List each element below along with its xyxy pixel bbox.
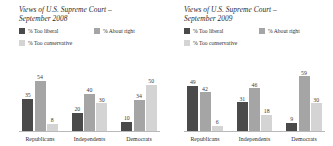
chart-title-line1: Views of U.S. Supreme Court – [19, 5, 166, 14]
plot-area: 35 54 8 20 [19, 75, 160, 132]
bar [200, 92, 211, 131]
bar-slot: 49 [187, 75, 198, 131]
bar [134, 100, 145, 132]
bar-value: 35 [25, 92, 31, 98]
bar [237, 102, 248, 131]
legend-label: % Too liberal [193, 28, 223, 34]
category-label: Independents [69, 136, 111, 143]
bar [299, 76, 310, 131]
category-axis-labels: Republicans Independents Democrats [184, 136, 325, 143]
bar [286, 123, 297, 131]
bar [47, 124, 58, 131]
bar-slot: 35 [22, 75, 33, 131]
dual-bar-chart-figure: Views of U.S. Supreme Court – September … [0, 0, 333, 146]
bar-value: 46 [252, 82, 258, 88]
bar-slot: 20 [72, 75, 83, 131]
bar [261, 115, 272, 132]
bar [187, 86, 198, 132]
legend-swatch-icon [184, 28, 190, 34]
bar-value: 31 [239, 96, 245, 102]
chart-title-line1: Views of U.S. Supreme Court – [184, 5, 332, 14]
bar-value: 20 [74, 106, 80, 112]
bar-slot: 9 [286, 75, 297, 131]
category-label: Republicans [19, 136, 61, 143]
bar-slot: 6 [212, 75, 223, 131]
bar-value: 40 [87, 87, 93, 93]
bar-slot: 40 [84, 75, 95, 131]
legend-swatch-icon [19, 28, 25, 34]
bar-group-republicans: 49 42 6 [184, 75, 226, 131]
legend-swatch-icon [184, 40, 190, 46]
bar-slot: 31 [237, 75, 248, 131]
chart-title-line2: September 2009 [184, 14, 332, 23]
chart-legend: % Too liberal % About right % Too conser… [19, 28, 162, 49]
bar-slot: 30 [96, 75, 107, 131]
chart-panel-2008: Views of U.S. Supreme Court – September … [0, 0, 166, 146]
bar [311, 103, 322, 131]
bar [146, 85, 157, 132]
bar-value: 42 [202, 86, 208, 92]
bar-slot: 10 [121, 75, 132, 131]
chart-title-line2: September 2008 [19, 14, 166, 23]
bar-value: 6 [216, 119, 219, 125]
bar-group-independents: 31 46 18 [234, 75, 276, 131]
legend-label: % About right [103, 28, 135, 34]
bar-slot: 8 [47, 75, 58, 131]
bar-value: 59 [301, 70, 307, 76]
legend-swatch-icon [94, 28, 100, 34]
legend-label: % Too conservative [28, 40, 72, 46]
chart-legend: % Too liberal % About right % Too conser… [184, 28, 327, 49]
axis-baseline [184, 131, 325, 132]
bar [121, 122, 132, 131]
bar-slot: 34 [134, 75, 145, 131]
bar-value: 49 [190, 79, 196, 85]
bar-slot: 54 [35, 75, 46, 131]
chart-panel-2009: Views of U.S. Supreme Court – September … [166, 0, 332, 146]
category-axis-labels: Republicans Independents Democrats [19, 136, 160, 143]
bar-value: 54 [37, 74, 43, 80]
bar-slot: 59 [299, 75, 310, 131]
bar-group-democrats: 9 59 30 [283, 75, 325, 131]
bar-groups: 35 54 8 20 [19, 75, 160, 131]
bar-value: 50 [148, 78, 154, 84]
legend-item-too-liberal: % Too liberal [184, 28, 259, 34]
plot-area: 49 42 6 31 [184, 75, 325, 132]
legend-label: % About right [268, 28, 300, 34]
bar [84, 94, 95, 131]
bar-value: 18 [264, 108, 270, 114]
legend-swatch-icon [19, 40, 25, 46]
bar-value: 9 [290, 116, 293, 122]
bar-value: 30 [99, 97, 105, 103]
legend-item-about-right: % About right [94, 28, 135, 34]
legend-label: % Too liberal [28, 28, 58, 34]
category-label: Democrats [283, 136, 325, 143]
legend-item-too-conservative: % Too conservative [184, 40, 259, 46]
bar [22, 99, 33, 132]
bar-slot: 30 [311, 75, 322, 131]
legend-row: % Too liberal % About right [184, 28, 327, 37]
bar [96, 103, 107, 131]
bar [35, 81, 46, 131]
legend-row: % Too conservative [19, 40, 162, 49]
legend-item-too-conservative: % Too conservative [19, 40, 94, 46]
bar-slot: 18 [261, 75, 272, 131]
bar-value: 34 [136, 93, 142, 99]
bar-slot: 46 [249, 75, 260, 131]
legend-item-about-right: % About right [259, 28, 300, 34]
bar-value: 10 [124, 115, 130, 121]
category-label: Independents [234, 136, 276, 143]
legend-label: % Too conservative [193, 40, 237, 46]
bar-value: 30 [313, 97, 319, 103]
bar-groups: 49 42 6 31 [184, 75, 325, 131]
bar-slot: 42 [200, 75, 211, 131]
category-label: Democrats [118, 136, 160, 143]
bar-group-democrats: 10 34 50 [118, 75, 160, 131]
bar-group-independents: 20 40 30 [69, 75, 111, 131]
axis-baseline [19, 131, 160, 132]
legend-row: % Too conservative [184, 40, 327, 49]
bar [249, 88, 260, 131]
bar-group-republicans: 35 54 8 [19, 75, 61, 131]
legend-swatch-icon [259, 28, 265, 34]
bar-value: 8 [51, 117, 54, 123]
legend-item-too-liberal: % Too liberal [19, 28, 94, 34]
